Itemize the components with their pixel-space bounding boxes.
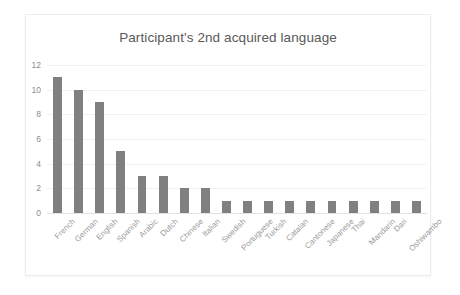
bar[interactable] <box>159 176 168 213</box>
bar[interactable] <box>138 176 147 213</box>
bar[interactable] <box>222 201 231 213</box>
bar-slot <box>174 65 195 213</box>
bar[interactable] <box>243 201 252 213</box>
bar[interactable] <box>95 102 104 213</box>
x-label-slot: Portuguese <box>237 213 258 275</box>
x-label-slot: Catalan <box>279 213 300 275</box>
x-label-slot: Oshiwambo <box>406 213 427 275</box>
y-axis-tick-label: 4 <box>36 159 41 169</box>
bar-slot <box>47 65 68 213</box>
bar[interactable] <box>74 90 83 213</box>
bar[interactable] <box>53 77 62 213</box>
bar[interactable] <box>306 201 315 213</box>
y-axis-tick-label: 0 <box>36 208 41 218</box>
bar-slot <box>343 65 364 213</box>
bar[interactable] <box>391 201 400 213</box>
bar-slot <box>385 65 406 213</box>
x-label-slot: Swedish <box>216 213 237 275</box>
plot-area: 024681012 <box>47 65 427 213</box>
bar-slot <box>364 65 385 213</box>
bar[interactable] <box>412 201 421 213</box>
bar-slot <box>300 65 321 213</box>
x-label-slot: German <box>68 213 89 275</box>
bar-slot <box>321 65 342 213</box>
bar[interactable] <box>349 201 358 213</box>
bar[interactable] <box>264 201 273 213</box>
bar[interactable] <box>201 188 210 213</box>
x-label-slot: Cantonese <box>300 213 321 275</box>
bar[interactable] <box>116 151 125 213</box>
x-label-slot: Turkish <box>258 213 279 275</box>
y-axis-tick-label: 10 <box>32 85 41 95</box>
bar-slot <box>68 65 89 213</box>
bar-series <box>47 65 427 213</box>
bar[interactable] <box>285 201 294 213</box>
bar-slot <box>110 65 131 213</box>
x-label-slot: Japanese <box>321 213 342 275</box>
bar[interactable] <box>328 201 337 213</box>
x-label-slot: Mandarin <box>364 213 385 275</box>
x-axis-tick-label: Oshiwambo <box>408 217 444 253</box>
x-label-slot: Dutch <box>153 213 174 275</box>
bar[interactable] <box>180 188 189 213</box>
x-label-slot: English <box>89 213 110 275</box>
y-axis-tick-label: 2 <box>36 183 41 193</box>
y-axis-tick-label: 12 <box>32 60 41 70</box>
bar-slot <box>279 65 300 213</box>
bar-slot <box>216 65 237 213</box>
x-label-slot: Arabic <box>131 213 152 275</box>
bar-slot <box>406 65 427 213</box>
bar-slot <box>89 65 110 213</box>
x-label-slot: Thai <box>343 213 364 275</box>
x-axis-tick-labels: FrenchGermanEnglishSpanishArabicDutchChi… <box>47 213 427 275</box>
x-label-slot: French <box>47 213 68 275</box>
bar-slot <box>153 65 174 213</box>
bar[interactable] <box>370 201 379 213</box>
y-axis-tick-label: 8 <box>36 109 41 119</box>
y-axis-tick-label: 6 <box>36 134 41 144</box>
x-label-slot: Italian <box>195 213 216 275</box>
x-label-slot: Dari <box>385 213 406 275</box>
chart-container: Participant's 2nd acquired language 0246… <box>25 14 431 276</box>
x-label-slot: Spanish <box>110 213 131 275</box>
bar-slot <box>258 65 279 213</box>
bar-slot <box>195 65 216 213</box>
chart-title: Participant's 2nd acquired language <box>26 30 430 45</box>
x-label-slot: Chinese <box>174 213 195 275</box>
bar-slot <box>131 65 152 213</box>
bar-slot <box>237 65 258 213</box>
